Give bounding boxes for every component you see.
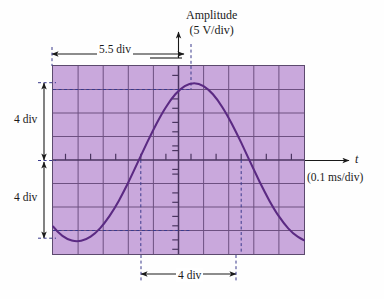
span-4div-bottom-label: 4 div xyxy=(176,268,203,282)
span-4div-upper-label: 4 div xyxy=(14,112,37,126)
span-4div-upper-dimension xyxy=(38,83,56,161)
span-4div-lower-label: 4 div xyxy=(14,190,37,204)
amplitude-title: Amplitude xyxy=(186,8,237,22)
span-5p5div-label: 5.5 div xyxy=(97,42,133,56)
dimension-annotations xyxy=(0,0,384,299)
amplitude-unit: (5 V/div) xyxy=(186,23,237,38)
oscilloscope-figure: Amplitude (5 V/div) t (0.1 ms/div) 5.5 d… xyxy=(0,0,384,299)
t-axis-symbol: t xyxy=(355,152,358,167)
amplitude-label: Amplitude (5 V/div) xyxy=(186,8,237,38)
span-4div-lower-dimension xyxy=(38,162,56,238)
t-axis-unit: (0.1 ms/div) xyxy=(307,170,363,184)
